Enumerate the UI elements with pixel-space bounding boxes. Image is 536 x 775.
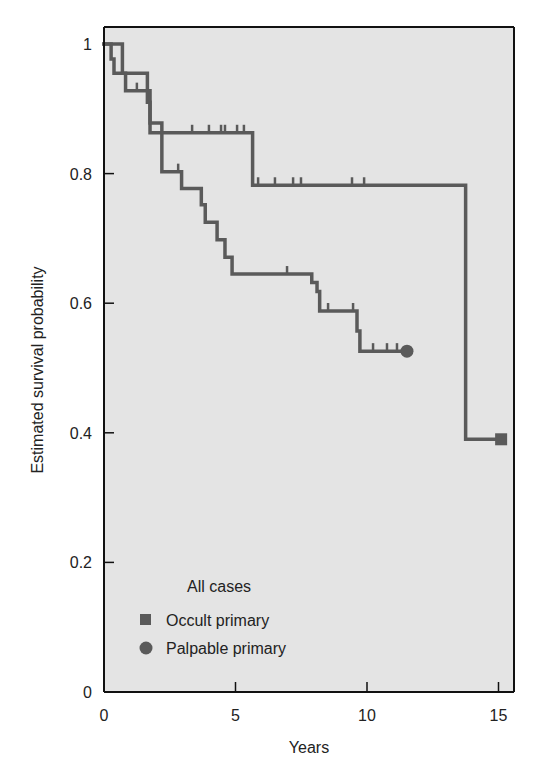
end-marker-occult-primary (495, 433, 507, 445)
y-axis-title: Estimated survival probability (29, 266, 46, 473)
x-axis-title: Years (289, 739, 329, 756)
legend-title: All cases (187, 578, 251, 595)
legend-marker-circle (140, 642, 153, 655)
y-tick-label: 0 (83, 684, 92, 701)
plot-background (104, 27, 514, 692)
end-marker-palpable-primary (400, 345, 413, 358)
legend-marker-square (140, 614, 151, 625)
legend-label-occult: Occult primary (166, 612, 269, 629)
x-tick-label: 10 (358, 707, 376, 724)
km-survival-chart: 051015 00.20.40.60.81 Years Estimated su… (0, 0, 536, 775)
y-tick-label: 0.8 (70, 166, 92, 183)
x-tick-label: 15 (490, 707, 508, 724)
y-tick-label: 0.4 (70, 425, 92, 442)
y-tick-label: 0.6 (70, 295, 92, 312)
legend-label-palpable: Palpable primary (166, 640, 286, 657)
x-tick-label: 0 (100, 707, 109, 724)
y-tick-label: 0.2 (70, 554, 92, 571)
y-tick-label: 1 (83, 36, 92, 53)
x-tick-label: 5 (231, 707, 240, 724)
